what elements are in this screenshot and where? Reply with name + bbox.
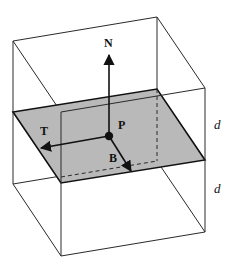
upper-half-d-label: d <box>214 117 221 132</box>
point-p-dot <box>105 132 113 140</box>
lower-half-d-label: d <box>214 181 221 196</box>
binormal-label: B <box>109 151 117 165</box>
tangent-label: T <box>40 124 48 138</box>
point-label: P <box>118 118 125 132</box>
cube-plane-diagram: N T P B d d <box>0 0 235 270</box>
normal-label: N <box>104 36 113 50</box>
